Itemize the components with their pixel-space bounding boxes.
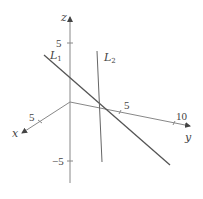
z-tick-label-neg5: −5 [52, 155, 64, 167]
line-L2 [97, 51, 102, 162]
y-tick-label-10: 10 [176, 110, 188, 122]
x-axis-label: x [12, 127, 19, 140]
y-axis-label: y [184, 131, 192, 144]
y-axis [70, 102, 190, 126]
x-tick-label-5: 5 [29, 111, 35, 123]
line-L1-label: L1 [49, 49, 62, 63]
3d-line-diagram: z 5 −5 x 5 y 5 10 L1 L2 [0, 0, 203, 199]
y-tick-label-5: 5 [124, 99, 130, 111]
line-L2-label: L2 [103, 51, 116, 65]
z-tick-label-5: 5 [56, 37, 62, 49]
z-axis-label: z [60, 11, 67, 24]
line-L1 [44, 55, 170, 165]
